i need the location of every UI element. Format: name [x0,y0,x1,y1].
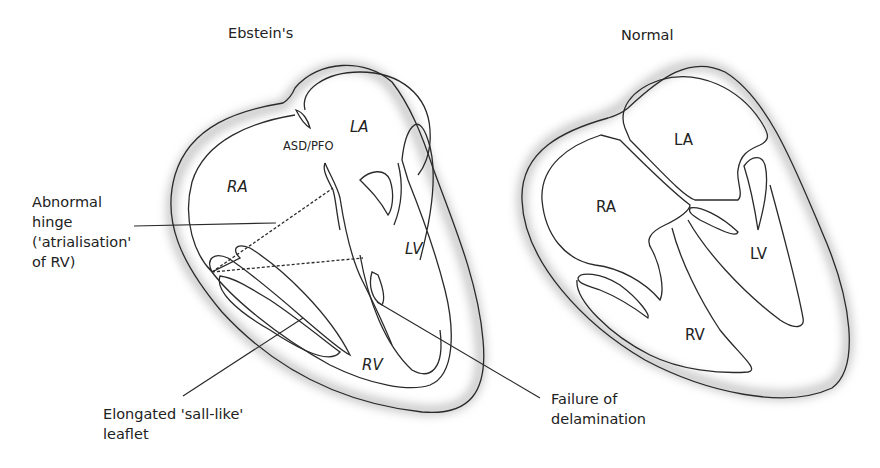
hinge-dashed-line-upper [212,188,333,272]
diagram-artwork [0,0,880,468]
outer-wall [171,65,484,412]
normal-title: Normal [621,25,673,45]
elongated-leaflet-annotation: Elongated 'sall-like' leaflet [103,404,243,444]
annotation-line: of RV) [32,252,131,272]
normal-lv-label: LV [750,245,767,263]
sail-like-leaflet [219,276,340,357]
ebsteins-lv-label: LV [405,240,423,258]
failure-delamination-annotation: Failure of delamination [551,389,646,429]
delamination-leader [377,302,540,398]
annotation-line: leaflet [103,424,243,444]
abnormal-hinge-annotation: Abnormal hinge ('atrialisation' of RV) [32,192,131,272]
ebsteins-heart [171,65,484,412]
outer-wall [522,66,849,397]
annotation-line: hinge [32,212,131,232]
annotation-line: Elongated 'sall-like' [103,404,243,424]
annotation-line: delamination [551,409,646,429]
normal-la-label: LA [674,131,693,149]
annotation-line: Abnormal [32,192,131,212]
heart-comparison-diagram: Ebstein's Normal RA LA LV RV ASD/PFO RA … [0,0,880,468]
abnormal-hinge-leader [134,223,276,226]
normal-heart [522,65,849,397]
ebsteins-title: Ebstein's [228,23,293,43]
ebsteins-ra-label: RA [227,178,248,196]
normal-rv-label: RV [685,326,705,344]
annotation-line: Failure of [551,389,646,409]
ebsteins-rv-label: RV [362,356,383,374]
normal-ra-label: RA [596,198,616,216]
annotation-line: ('atrialisation' [32,232,131,252]
asd-pfo-label: ASD/PFO [283,136,334,156]
ebsteins-la-label: LA [350,118,369,136]
